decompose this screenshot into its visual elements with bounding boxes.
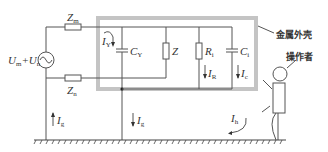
arrow-head-icon: [228, 131, 232, 135]
arrow-head-icon: [236, 74, 240, 79]
ground-hatch-mark: [58, 140, 60, 144]
ground-hatch: [34, 140, 282, 144]
ground-hatch-mark: [82, 140, 84, 144]
source-label: Um+Un: [8, 54, 41, 68]
ground-hatch-mark: [256, 140, 258, 144]
ground-hatch-mark: [142, 140, 144, 144]
ground-hatch-mark: [52, 140, 54, 144]
ground-hatch-mark: [148, 140, 150, 144]
ground-hatch-mark: [118, 140, 120, 144]
ic-label: Ic: [240, 67, 248, 81]
ci-label: Ci: [240, 45, 249, 59]
ground-hatch-mark: [268, 140, 270, 144]
ground-hatch-mark: [208, 140, 210, 144]
iy-label: IY: [101, 35, 111, 49]
ig-left-label: Ig: [56, 114, 65, 128]
zn-impedance: [65, 75, 81, 81]
ir-label: IR: [207, 67, 217, 81]
ground-hatch-mark: [130, 140, 132, 144]
ground-hatch-mark: [196, 140, 198, 144]
ground-hatch-mark: [232, 140, 234, 144]
ground-hatch-mark: [244, 140, 246, 144]
ground-hatch-mark: [34, 140, 36, 144]
ground-hatch-mark: [106, 140, 108, 144]
ground-hatch-mark: [178, 140, 180, 144]
ground-hatch-mark: [184, 140, 186, 144]
arrow-head-icon: [51, 112, 55, 117]
circuit-diagram: Zm Zn Um+Un IY CY Z Ri IR Ci Ic Ig Ig Ih…: [0, 0, 328, 152]
arrow-head-icon: [131, 122, 135, 127]
ground-hatch-mark: [64, 140, 66, 144]
housing-leader-line: [258, 26, 274, 33]
arrow-head-icon: [111, 42, 115, 47]
ground-hatch-mark: [238, 140, 240, 144]
operator-body: [273, 83, 285, 113]
ground-hatch-mark: [220, 140, 222, 144]
sine-wave-icon: [40, 57, 52, 63]
ground-hatch-mark: [262, 140, 264, 144]
operator-arm: [263, 80, 272, 89]
zn-label: Zn: [67, 84, 77, 98]
ground-hatch-mark: [88, 140, 90, 144]
ground-hatch-mark: [100, 140, 102, 144]
z-impedance: [163, 43, 169, 59]
ground-hatch-mark: [76, 140, 78, 144]
ih-label: Ih: [230, 112, 239, 126]
ground-hatch-mark: [94, 140, 96, 144]
operator-head: [273, 67, 287, 81]
housing-label: 金属外壳: [275, 29, 312, 40]
ground-hatch-mark: [202, 140, 204, 144]
ground-hatch-mark: [250, 140, 252, 144]
ground-hatch-mark: [226, 140, 228, 144]
ri-label: Ri: [204, 45, 214, 59]
ground-hatch-mark: [274, 140, 276, 144]
operator-arm: [262, 106, 270, 112]
z-label: Z: [172, 45, 179, 57]
ground-hatch-mark: [166, 140, 168, 144]
ground-hatch-mark: [112, 140, 114, 144]
ground-hatch-mark: [190, 140, 192, 144]
ri-resistor: [196, 43, 202, 59]
ground-hatch-mark: [280, 140, 282, 144]
ground-hatch-mark: [136, 140, 138, 144]
zm-label: Zm: [67, 11, 79, 25]
ground-hatch-mark: [40, 140, 42, 144]
ground-hatch-mark: [160, 140, 162, 144]
ig-mid-label: Ig: [136, 114, 145, 128]
operator-leg: [272, 113, 276, 140]
operator-label: 操作者: [286, 51, 313, 62]
cy-label: CY: [130, 45, 142, 59]
ground-hatch-mark: [214, 140, 216, 144]
arrow-head-icon: [203, 74, 207, 79]
ground-hatch-mark: [124, 140, 126, 144]
ground-hatch-mark: [46, 140, 48, 144]
ground-hatch-mark: [154, 140, 156, 144]
ground-hatch-mark: [70, 140, 72, 144]
ground-hatch-mark: [172, 140, 174, 144]
